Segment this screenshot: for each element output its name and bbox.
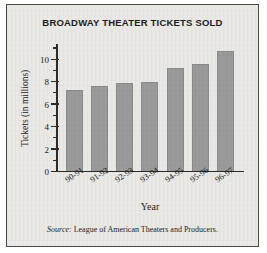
bar: [192, 64, 209, 171]
y-tick-label: 2: [45, 145, 50, 155]
y-tick-label: 10: [40, 55, 49, 65]
bar: [116, 83, 133, 171]
plot-area: 0246810: [56, 44, 244, 172]
y-tick-label: 8: [45, 77, 50, 87]
bar: [66, 90, 83, 171]
chart-figure: BROADWAY THEATER TICKETS SOLD Tickets (i…: [6, 4, 259, 247]
x-label-slot: 93-94: [137, 174, 162, 202]
y-tick-label: 6: [45, 100, 50, 110]
x-axis-tick-labels: 90-9191-9292-9393-9494-9595-9696-97: [56, 174, 244, 202]
x-label-slot: 96-97: [213, 174, 238, 202]
y-axis-label: Tickets (in millions): [20, 44, 30, 172]
y-tick-label: 0: [45, 167, 50, 177]
y-tick-label: 4: [45, 122, 50, 132]
bar-series: [56, 44, 244, 171]
bar-slot: [213, 44, 238, 171]
source-prefix: Source:: [47, 225, 72, 234]
source-text: League of American Theaters and Producer…: [74, 225, 218, 234]
bar: [91, 86, 108, 170]
x-label-slot: 92-93: [112, 174, 137, 202]
bar-slot: [62, 44, 87, 171]
x-axis-label: Year: [56, 201, 244, 212]
x-label-slot: 95-96: [188, 174, 213, 202]
bar: [217, 51, 234, 171]
bar: [167, 68, 184, 170]
source-note: Source: League of American Theaters and …: [7, 225, 258, 234]
bar-slot: [163, 44, 188, 171]
y-tick-major: [51, 171, 59, 172]
bar: [141, 82, 158, 171]
x-label-slot: 90-91: [62, 174, 87, 202]
chart-title: BROADWAY THEATER TICKETS SOLD: [7, 17, 258, 28]
bar-slot: [112, 44, 137, 171]
x-label-slot: 91-92: [87, 174, 112, 202]
bar-slot: [188, 44, 213, 171]
bar-slot: [87, 44, 112, 171]
bar-slot: [137, 44, 162, 171]
x-label-slot: 94-95: [163, 174, 188, 202]
